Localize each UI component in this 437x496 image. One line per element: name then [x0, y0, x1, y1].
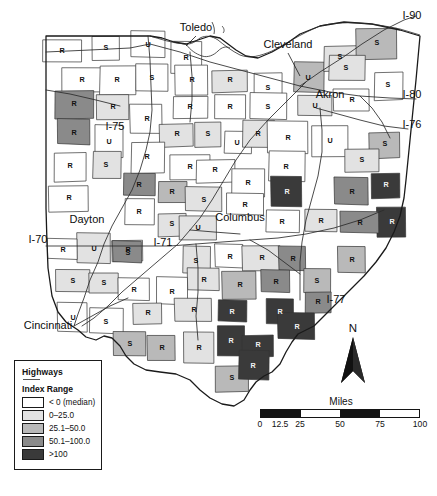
county-letter-fairfield: R	[227, 252, 233, 261]
scale-tick-50: 50	[335, 419, 345, 429]
county-letter-fulton: S	[104, 43, 109, 52]
county-letter-lucas: U	[145, 40, 150, 49]
county-letter-pickaway: R	[201, 275, 207, 284]
county-letter-union: S	[202, 195, 207, 204]
city-label-columbus: Columbus	[215, 211, 265, 223]
county-letter-perry: R	[259, 253, 265, 262]
county-letter-miami: R	[136, 207, 142, 216]
county-letter-paulding: R	[71, 99, 77, 108]
county-letter-cuyahoga: U	[305, 73, 310, 82]
legend-label-4: >100	[49, 450, 67, 459]
county-letter-mahoning: S	[383, 139, 388, 148]
city-label-akron: Akron	[316, 88, 345, 100]
scale-tick-0: 0	[258, 419, 263, 429]
legend-label-1: 0–25.0	[49, 411, 74, 420]
highway-label-i-80: I-80	[403, 88, 422, 100]
scale-tick-100: 100	[413, 419, 427, 429]
county-letter-carroll: R	[383, 180, 389, 189]
county-letter-muskingum: R	[273, 277, 279, 286]
legend-title: Highways	[22, 367, 95, 377]
county-letter-allen: U	[106, 137, 111, 146]
county-letter-warren: S	[102, 278, 107, 287]
county-letter-darke: R	[66, 193, 72, 202]
legend-swatch-4	[22, 449, 44, 460]
county-letter-scioto: S	[230, 373, 235, 382]
highway-label-i-70: I-70	[29, 233, 48, 245]
county-letter-washington: R	[315, 297, 321, 306]
county-letter-erie: R	[227, 75, 233, 84]
lake-erie-islands	[212, 22, 224, 34]
county-letter-knox: R	[245, 178, 251, 187]
county-letter-meigs: R	[294, 322, 300, 331]
legend-row-4: >100	[22, 449, 95, 460]
legend-row-0: < 0 (median)	[22, 397, 95, 408]
north-arrow-label: N	[333, 322, 373, 335]
county-letter-logan: R	[169, 187, 175, 196]
county-letter-pike: R	[196, 343, 202, 352]
county-letter-columbiana: S	[360, 155, 365, 164]
county-letter-wyandot: R	[174, 129, 180, 138]
scale-segment-3	[340, 410, 380, 417]
county-letter-geauga: S	[344, 63, 349, 72]
county-letter-noble: S	[315, 276, 320, 285]
county-letter-lorain: S	[266, 83, 271, 92]
county-letter-shelby: R	[136, 180, 142, 189]
legend-label-2: 25.1–50.0	[49, 424, 85, 433]
scale-tick-12.5: 12.5	[272, 419, 289, 429]
county-letter-richland: U	[234, 138, 239, 147]
county-letter-clark: S	[126, 248, 131, 257]
county-letter-crawford: S	[206, 129, 211, 138]
county-letter-belmont: R	[349, 255, 355, 264]
legend-label-3: 50.1–100.0	[49, 437, 90, 446]
county-letter-hocking: R	[237, 280, 243, 289]
county-letter-sandusky: R	[189, 75, 195, 84]
highway-label-i-90: I-90	[403, 9, 422, 21]
county-letter-portage: R	[349, 95, 355, 104]
county-letter-putnam: R	[110, 102, 116, 111]
county-letter-harrison: R	[357, 218, 363, 227]
county-letter-athens: R	[277, 307, 283, 316]
county-letter-gallia: R	[255, 340, 261, 349]
county-letter-huron: R	[227, 102, 233, 111]
county-letter-marion: R	[187, 162, 193, 171]
county-letter-stark: U	[327, 136, 332, 145]
county-letter-preble: R	[60, 245, 66, 254]
county-letter-guernsey: R	[318, 216, 324, 225]
legend-swatch-1	[22, 410, 44, 421]
scale-bar-ticks: 012.5255075100	[258, 419, 422, 432]
county-letter-brown: S	[128, 339, 133, 348]
county-letter-hancock: R	[144, 114, 150, 123]
county-letter-montgomery: U	[91, 244, 96, 253]
scale-bar-title: Miles	[258, 396, 424, 407]
legend-swatch-0	[22, 397, 44, 408]
scale-tick-25: 25	[295, 419, 305, 429]
legend-subtitle: Index Range	[22, 384, 95, 394]
county-letter-ashtabula: S	[375, 38, 380, 47]
legend-row-2: 25.1–50.0	[22, 423, 95, 434]
north-arrow: N	[333, 322, 373, 388]
county-letter-auglaize: S	[104, 160, 109, 169]
legend-highway-rule	[23, 379, 40, 380]
county-letter-ottawa: R	[183, 53, 189, 62]
county-letter-ross: R	[191, 305, 197, 314]
county-letter-delaware: R	[242, 200, 248, 209]
county-letter-vinton: R	[229, 307, 235, 316]
scale-bar-segments	[260, 409, 420, 418]
scale-segment-2	[301, 410, 341, 417]
county-letter-butler: S	[71, 276, 76, 285]
county-letter-clinton: R	[131, 285, 137, 294]
county-letter-wood: S	[150, 73, 155, 82]
county-letter-williams: R	[59, 46, 65, 55]
county-letter-coshocton: R	[284, 187, 290, 196]
map-legend: Highways Index Range < 0 (median)0–25.02…	[14, 360, 102, 470]
legend-swatch-2	[22, 423, 44, 434]
county-letter-jefferson: R	[389, 217, 395, 226]
county-letter-lawrence: R	[250, 361, 256, 370]
county-letter-licking: R	[279, 217, 285, 226]
county-letter-wayne: R	[285, 133, 291, 142]
county-letter-jackson: R	[228, 336, 234, 345]
county-letter-franklin: U	[195, 223, 200, 232]
county-letter-ashland: R	[255, 129, 261, 138]
highway-label-i-77: I-77	[327, 293, 346, 305]
scale-segment-0	[261, 410, 281, 417]
